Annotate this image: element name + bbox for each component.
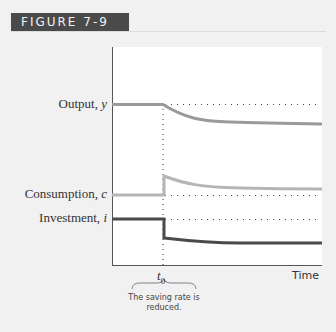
time-axis-label: Time [292,269,319,282]
investment-line [112,219,322,243]
output-line [112,105,322,125]
t0-label: t0 [157,268,165,286]
consumption-line [112,176,322,195]
output-label: Output, y [59,96,107,112]
saving-rate-note: The saving rate is reduced. [126,293,202,313]
consumption-label: Consumption, c [25,186,107,202]
investment-label: Investment, i [39,210,107,226]
chart-svg [0,0,336,332]
